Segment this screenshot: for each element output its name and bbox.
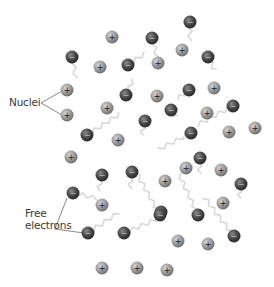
nucleus: + [65, 151, 78, 164]
minus-sign-icon: − [186, 86, 193, 95]
nucleus: + [101, 102, 114, 115]
minus-sign-icon: − [230, 102, 237, 111]
nucleus: + [215, 164, 228, 177]
nucleus: + [202, 238, 215, 251]
plus-sign-icon: + [226, 128, 233, 137]
minus-sign-icon: − [70, 189, 77, 198]
free-electron: − [118, 227, 131, 240]
nucleus: + [61, 109, 74, 122]
nucleus: + [249, 122, 262, 135]
free-electron: − [81, 129, 94, 142]
free-electron: − [96, 169, 109, 182]
plus-sign-icon: + [97, 63, 104, 72]
plus-sign-icon: + [99, 201, 106, 210]
plus-sign-icon: + [175, 237, 182, 246]
plus-sign-icon: + [155, 59, 162, 68]
nucleus: + [131, 262, 144, 275]
nucleus: + [151, 90, 164, 103]
nuclei-leader-line [41, 91, 62, 115]
plus-sign-icon: + [179, 46, 186, 55]
nucleus: + [208, 82, 221, 95]
minus-sign-icon: − [129, 168, 136, 177]
nucleus: + [61, 84, 74, 97]
nucleus: + [112, 134, 125, 147]
nucleus: + [176, 44, 189, 57]
nucleus: + [172, 235, 185, 248]
plus-sign-icon: + [154, 92, 161, 101]
free-electron: − [139, 115, 152, 128]
free-electron: − [194, 152, 207, 165]
minus-sign-icon: − [84, 131, 91, 140]
plus-sign-icon: + [104, 104, 111, 113]
nucleus: + [94, 61, 107, 74]
minus-sign-icon: − [188, 129, 195, 138]
metallic-bond-diagram: ++++++++++++++++++++++++−−−−−−−−−−−−−−−−… [0, 0, 274, 287]
minus-sign-icon: − [99, 171, 106, 180]
minus-sign-icon: − [231, 232, 238, 241]
plus-sign-icon: + [218, 166, 225, 175]
free-electron: − [122, 59, 135, 72]
free-electron: − [192, 209, 205, 222]
free-electron: − [120, 89, 133, 102]
plus-sign-icon: + [134, 264, 141, 273]
nucleus: + [161, 264, 174, 277]
plus-sign-icon: + [64, 111, 71, 120]
minus-sign-icon: − [205, 53, 212, 62]
nucleus: + [96, 199, 109, 212]
plus-sign-icon: + [64, 86, 71, 95]
free-electron: − [183, 84, 196, 97]
plus-sign-icon: + [162, 177, 169, 186]
minus-sign-icon: − [197, 154, 204, 163]
minus-sign-icon: − [69, 53, 76, 62]
plus-sign-icon: + [252, 124, 259, 133]
plus-sign-icon: + [164, 266, 171, 275]
nucleus: + [159, 175, 172, 188]
minus-sign-icon: − [123, 91, 130, 100]
nucleus: + [223, 126, 236, 139]
particles: ++++++++++++++++++++++++−−−−−−−−−−−−−−−−… [0, 0, 274, 287]
plus-sign-icon: + [211, 84, 218, 93]
free-electron: − [184, 16, 197, 29]
plus-sign-icon: + [204, 109, 211, 118]
plus-sign-icon: + [109, 33, 116, 42]
plus-sign-icon: + [68, 153, 75, 162]
free-electrons-label-2: electrons [25, 219, 72, 231]
nucleus: + [201, 107, 214, 120]
free-electron: − [67, 187, 80, 200]
minus-sign-icon: − [125, 61, 132, 70]
minus-sign-icon: − [187, 18, 194, 27]
minus-sign-icon: − [168, 106, 175, 115]
free-electrons-label-1: Free [25, 207, 46, 219]
free-electron: − [202, 51, 215, 64]
plus-sign-icon: + [183, 164, 190, 173]
minus-sign-icon: − [85, 229, 92, 238]
nucleus: + [152, 57, 165, 70]
minus-sign-icon: − [157, 211, 164, 220]
nucleus: + [180, 162, 193, 175]
minus-sign-icon: − [195, 211, 202, 220]
free-electron: − [154, 209, 167, 222]
free-electron: − [66, 51, 79, 64]
free-electron: − [227, 100, 240, 113]
minus-sign-icon: − [121, 229, 128, 238]
free-electron: − [165, 104, 178, 117]
minus-sign-icon: − [149, 34, 156, 43]
plus-sign-icon: + [205, 240, 212, 249]
minus-sign-icon: − [238, 180, 245, 189]
nucleus: + [106, 31, 119, 44]
plus-sign-icon: + [220, 199, 227, 208]
free-electron: − [235, 178, 248, 191]
plus-sign-icon: + [115, 136, 122, 145]
free-electron: − [82, 227, 95, 240]
plus-sign-icon: + [99, 264, 106, 273]
free-electron: − [185, 127, 198, 140]
nuclei-label: Nuclei [9, 96, 40, 108]
free-electron: − [146, 32, 159, 45]
free-electron: − [126, 166, 139, 179]
free-electron: − [228, 230, 241, 243]
minus-sign-icon: − [142, 117, 149, 126]
nucleus: + [217, 197, 230, 210]
nucleus: + [96, 262, 109, 275]
